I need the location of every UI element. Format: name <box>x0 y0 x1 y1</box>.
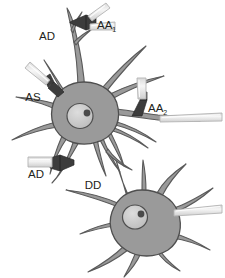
label-dd: DD <box>85 179 102 191</box>
pipette-aa2-vertical <box>137 78 146 99</box>
upper-neuron-nucleolus <box>84 110 91 117</box>
neuron-diagram-svg: AD AA1 AS AA2 AD DD <box>0 0 225 278</box>
upper-neuron-nucleus <box>67 104 93 129</box>
pipette-ad-bottom <box>28 157 52 167</box>
label-ad-top: AD <box>39 30 55 42</box>
label-as: AS <box>25 91 41 103</box>
neuron-diagram-canvas: AD AA1 AS AA2 AD DD <box>0 0 225 278</box>
lower-neuron-nucleus <box>123 205 148 229</box>
lower-neuron-nucleolus <box>138 211 145 218</box>
label-ad-bottom: AD <box>28 168 44 180</box>
